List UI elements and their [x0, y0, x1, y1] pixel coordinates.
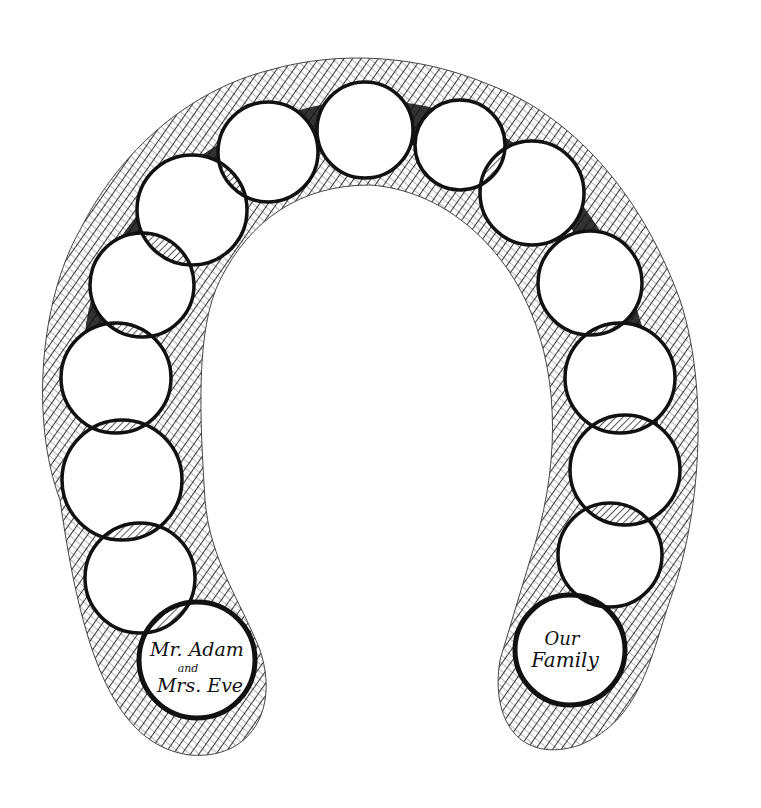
generations-arch-illustration: Mr. Adam and Mrs. Eve Our Family	[0, 0, 761, 808]
start-label-line3: Mrs. Eve	[156, 674, 243, 696]
end-label-line2: Family	[530, 648, 599, 672]
start-label-line1: Mr. Adam	[149, 638, 244, 660]
end-label-line1: Our	[545, 628, 581, 649]
